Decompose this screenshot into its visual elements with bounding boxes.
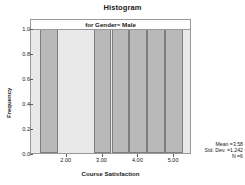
x-tick-mark (102, 154, 103, 157)
x-tick-label: 3.00 (89, 157, 115, 163)
histogram-chart: Histogram for Gender= Male 0.00.20.40.60… (0, 0, 245, 185)
stat-n: N =6 (193, 153, 243, 159)
x-tick-mark (173, 154, 174, 157)
x-tick-label: 5.00 (160, 157, 186, 163)
x-tick-label: 2.00 (53, 157, 79, 163)
x-axis-title: Course Satisfaction (30, 170, 191, 177)
x-tick-mark (66, 154, 67, 157)
x-tick-label: 4.00 (124, 157, 150, 163)
statistics-annotation: Mean =3.58 Std. Dev. =1.242 N =6 (193, 141, 243, 160)
x-tick-mark (137, 154, 138, 157)
